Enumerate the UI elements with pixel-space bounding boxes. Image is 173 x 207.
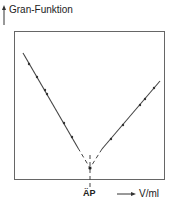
y-axis-label: Gran-Funktion (9, 4, 73, 15)
endpoint-marker (88, 166, 91, 169)
left-branch-line (23, 53, 78, 148)
y-axis-arrow-icon (2, 5, 6, 25)
x-axis-label: V/ml (139, 188, 159, 199)
left-extrapolation (78, 148, 90, 168)
gran-plot (0, 0, 173, 207)
right-extrapolation (90, 149, 102, 168)
x-axis-arrow-icon (117, 192, 136, 196)
endpoint-label: ÄP (83, 188, 96, 198)
